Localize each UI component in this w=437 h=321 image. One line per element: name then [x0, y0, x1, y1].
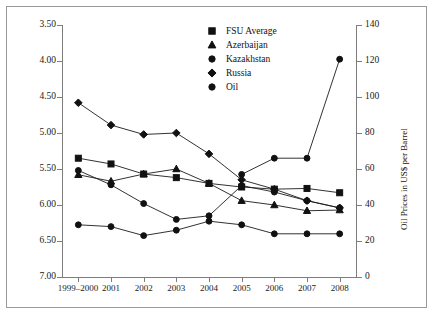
series-layer [0, 0, 437, 321]
data-point-marker [173, 227, 179, 233]
data-point-marker [140, 131, 148, 139]
data-point-marker [108, 161, 114, 167]
data-point-marker [75, 155, 81, 161]
data-point-marker [173, 129, 181, 137]
data-point-marker [107, 121, 115, 129]
data-point-marker [75, 168, 81, 174]
data-point-marker [75, 222, 81, 228]
data-point-marker [303, 197, 311, 205]
data-point-marker [173, 165, 180, 172]
data-point-marker [206, 218, 212, 224]
series-line [78, 170, 339, 219]
series-oil-price-line [239, 56, 343, 177]
data-point-marker [304, 185, 310, 191]
data-point-marker [173, 175, 179, 181]
data-point-marker [75, 99, 83, 107]
series-russia [75, 99, 344, 212]
data-point-marker [141, 233, 147, 239]
data-point-marker [271, 155, 277, 161]
data-point-marker [304, 155, 310, 161]
data-point-marker [239, 222, 245, 228]
data-point-marker [271, 231, 277, 237]
series-kazakhstan [75, 168, 342, 223]
data-point-marker [337, 231, 343, 237]
series-oil [75, 218, 342, 238]
data-point-marker [173, 216, 179, 222]
data-point-marker [337, 190, 343, 196]
series-fsu-average [75, 155, 342, 196]
data-point-marker [238, 197, 245, 204]
series-line [242, 59, 340, 174]
data-point-marker [108, 182, 114, 188]
data-point-marker [304, 231, 310, 237]
data-point-marker [141, 201, 147, 207]
figure: Democracy Score Oil Prices in US$ per Ba… [0, 0, 437, 321]
data-point-marker [108, 224, 114, 230]
series-line [78, 169, 339, 211]
data-point-marker [337, 56, 343, 62]
series-line [78, 158, 339, 193]
data-point-marker [239, 171, 245, 177]
series-azerbaijan [75, 165, 344, 213]
